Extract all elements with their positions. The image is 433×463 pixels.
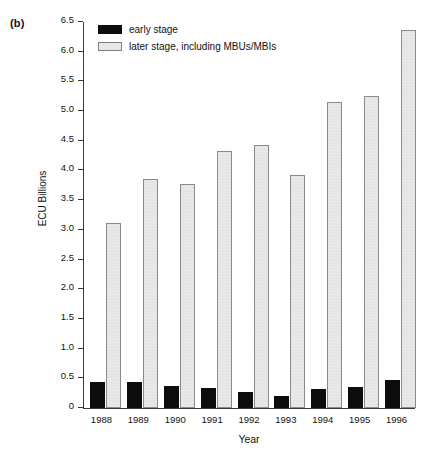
bar-group: [274, 22, 305, 408]
x-axis-tick-label: 1989: [118, 414, 158, 425]
x-axis-tick-label: 1988: [81, 414, 121, 425]
legend: early stage later stage, including MBUs/…: [98, 22, 276, 56]
bar-early-stage: [90, 382, 105, 408]
bar-group: [201, 22, 232, 408]
legend-label-early-stage: early stage: [129, 24, 178, 35]
bar-group: [164, 22, 195, 408]
bar-later-stage: [180, 184, 195, 408]
bar-early-stage: [238, 392, 253, 408]
x-axis-tick-label: 1995: [340, 414, 380, 425]
bar-series-container: [83, 22, 415, 408]
y-axis-tick-label: 5.0: [61, 103, 74, 114]
bar-later-stage: [254, 145, 269, 408]
x-axis-title: Year: [83, 433, 415, 445]
bar-later-stage: [217, 151, 232, 408]
y-axis-tick-label: 6.5: [61, 14, 74, 25]
bar-group: [385, 22, 416, 408]
bar-early-stage: [127, 382, 142, 408]
bar-later-stage: [290, 175, 305, 408]
y-axis-tick-label: 4.0: [61, 162, 74, 173]
figure: (b) ECU Billions 00.51.01.52.02.53.03.54…: [0, 0, 433, 463]
y-axis-tick-label: 6.0: [61, 44, 74, 55]
bar-early-stage: [311, 389, 326, 408]
bar-group: [90, 22, 121, 408]
legend-item-later-stage: later stage, including MBUs/MBIs: [98, 39, 276, 54]
y-axis-tick-label: 1.5: [61, 311, 74, 322]
x-axis-tick-label: 1990: [155, 414, 195, 425]
x-axis-tick-label: 1991: [192, 414, 232, 425]
bar-early-stage: [385, 380, 400, 408]
x-axis-tick-label: 1994: [303, 414, 343, 425]
y-axis-tick-label: 2.5: [61, 252, 74, 263]
bar-later-stage: [106, 223, 121, 408]
y-axis-tick-label: 4.5: [61, 133, 74, 144]
legend-label-later-stage: later stage, including MBUs/MBIs: [129, 41, 276, 52]
x-axis-line: [83, 408, 415, 409]
y-axis-tick-label: 0: [69, 400, 74, 411]
x-axis-tick-label: 1992: [229, 414, 269, 425]
y-axis-tick-label: 2.0: [61, 281, 74, 292]
bar-early-stage: [274, 396, 289, 408]
bar-group: [311, 22, 342, 408]
bar-later-stage: [143, 179, 158, 408]
bar-early-stage: [164, 386, 179, 408]
bar-early-stage: [201, 388, 216, 408]
bar-group: [348, 22, 379, 408]
bar-group: [238, 22, 269, 408]
bar-later-stage: [327, 102, 342, 408]
legend-item-early-stage: early stage: [98, 22, 276, 37]
y-axis-tick-label: 0.5: [61, 370, 74, 381]
bar-early-stage: [348, 387, 363, 408]
bar-group: [127, 22, 158, 408]
x-axis-tick-label: 1996: [377, 414, 417, 425]
y-axis-tick-label: 1.0: [61, 341, 74, 352]
bar-later-stage: [401, 30, 416, 408]
plot-area: 00.51.01.52.02.53.03.54.04.55.05.56.06.5…: [83, 22, 415, 408]
y-axis-title: ECU Billions: [37, 139, 48, 259]
y-axis-tick-label: 3.5: [61, 192, 74, 203]
legend-swatch-later-stage: [98, 42, 122, 51]
y-axis-tick-label: 3.0: [61, 222, 74, 233]
bar-later-stage: [364, 96, 379, 408]
x-axis-tick-label: 1993: [266, 414, 306, 425]
legend-swatch-early-stage: [98, 25, 122, 34]
y-axis-tick-label: 5.5: [61, 73, 74, 84]
panel-label: (b): [10, 17, 25, 29]
